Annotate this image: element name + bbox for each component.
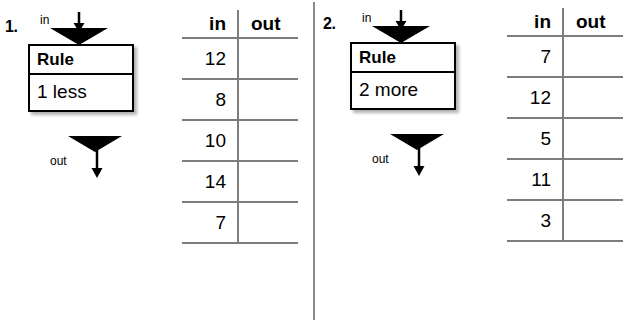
table-header-out: out — [563, 8, 623, 36]
cell-in: 5 — [507, 118, 563, 159]
machine-in-label: in — [40, 14, 49, 26]
cell-out[interactable] — [238, 120, 298, 161]
cell-out[interactable] — [563, 200, 623, 241]
table-row: 14 — [182, 161, 298, 202]
table-row: 10 — [182, 120, 298, 161]
cell-in: 3 — [507, 200, 563, 241]
table-header-row: in out — [507, 8, 623, 36]
rule-box: Rule 2 more — [350, 42, 456, 110]
rule-box: Rule 1 less — [28, 44, 134, 112]
rule-body: 2 more — [352, 73, 454, 108]
problem-2: 2. in Rule 2 more out — [315, 0, 625, 322]
problem-number: 1. — [5, 18, 17, 36]
rule-title: Rule — [30, 46, 132, 75]
problem-number: 2. — [323, 15, 335, 33]
out-arrow-icon — [412, 146, 426, 176]
table-row: 3 — [507, 200, 623, 241]
cell-in: 8 — [182, 79, 238, 120]
cell-in: 12 — [182, 38, 238, 79]
cell-out[interactable] — [563, 36, 623, 77]
table-row: 12 — [507, 77, 623, 118]
in-funnel-icon — [50, 28, 108, 45]
table-row: 8 — [182, 79, 298, 120]
cell-out[interactable] — [238, 202, 298, 243]
out-arrow-icon — [90, 148, 104, 178]
table-row: 7 — [507, 36, 623, 77]
problem-1: 1. in Rule 1 less out — [0, 0, 313, 322]
table-row: 7 — [182, 202, 298, 243]
cell-out[interactable] — [238, 161, 298, 202]
table-row: 11 — [507, 159, 623, 200]
table-row: 5 — [507, 118, 623, 159]
table-header-in: in — [507, 8, 563, 36]
worksheet-page: 1. in Rule 1 less out — [0, 0, 625, 322]
in-funnel-icon — [372, 26, 430, 43]
rule-body: 1 less — [30, 75, 132, 110]
cell-out[interactable] — [563, 118, 623, 159]
cell-in: 14 — [182, 161, 238, 202]
table-header-row: in out — [182, 10, 298, 38]
cell-in: 7 — [507, 36, 563, 77]
cell-out[interactable] — [563, 159, 623, 200]
rule-title: Rule — [352, 44, 454, 73]
machine-out-label: out — [50, 155, 67, 167]
cell-in: 12 — [507, 77, 563, 118]
cell-in: 10 — [182, 120, 238, 161]
table-row: 12 — [182, 38, 298, 79]
cell-out[interactable] — [563, 77, 623, 118]
machine-in-label: in — [362, 12, 371, 24]
table-header-in: in — [182, 10, 238, 38]
cell-in: 11 — [507, 159, 563, 200]
cell-out[interactable] — [238, 38, 298, 79]
cell-out[interactable] — [238, 79, 298, 120]
in-out-table: in out 7 12 5 — [507, 8, 623, 242]
machine-out-label: out — [372, 153, 389, 165]
cell-in: 7 — [182, 202, 238, 243]
in-out-table: in out 12 8 10 — [182, 10, 298, 244]
table-header-out: out — [238, 10, 298, 38]
